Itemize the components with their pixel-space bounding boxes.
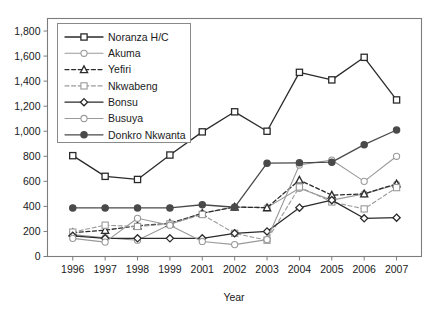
legend-label: Bonsu	[108, 96, 138, 108]
data-point-marker	[264, 160, 270, 166]
y-tick-label: 1,200	[14, 100, 40, 112]
data-point-marker	[199, 238, 205, 244]
data-point-marker	[81, 34, 87, 40]
x-tick-label: 2006	[353, 263, 377, 275]
chart-canvas: 02004006008001,0001,2001,4001,6001,800 1…	[0, 0, 435, 321]
y-tick-label: 0	[35, 250, 41, 262]
x-tick-label: 1999	[158, 263, 182, 275]
line-chart: 02004006008001,0001,2001,4001,6001,800 1…	[0, 0, 435, 321]
data-point-marker	[134, 223, 140, 229]
x-tick-label: 2005	[320, 263, 344, 275]
data-point-marker	[81, 115, 87, 121]
data-point-marker	[199, 202, 205, 208]
x-tick-label: 1998	[126, 263, 150, 275]
data-point-marker	[361, 215, 368, 222]
data-point-marker	[70, 205, 76, 211]
y-tick-label: 200	[23, 225, 41, 237]
data-point-marker	[329, 77, 335, 83]
x-axis-tick-labels: 1996199719981999200120022003200420052006…	[61, 263, 408, 275]
y-tick-label: 800	[23, 150, 41, 162]
data-point-marker	[102, 173, 108, 179]
data-point-marker	[81, 132, 87, 138]
data-point-marker	[296, 176, 303, 183]
data-point-marker	[393, 97, 399, 103]
data-point-marker	[134, 176, 140, 182]
data-point-marker	[393, 153, 399, 159]
x-tick-label: 2007	[385, 263, 409, 275]
data-point-marker	[167, 205, 173, 211]
data-point-marker	[296, 160, 302, 166]
data-point-marker	[393, 127, 399, 133]
data-point-marker	[70, 235, 76, 241]
data-point-marker	[329, 159, 335, 165]
x-tick-label: 1997	[93, 263, 117, 275]
data-point-marker	[264, 128, 270, 134]
x-tick-label: 2001	[191, 263, 215, 275]
data-point-marker	[393, 214, 400, 221]
data-point-marker	[393, 185, 399, 191]
x-axis-title: Year	[223, 291, 245, 303]
data-point-marker	[232, 109, 238, 115]
data-point-marker	[232, 204, 238, 210]
y-tick-label: 1,600	[14, 50, 40, 62]
legend-label: Yefiri	[108, 63, 131, 75]
data-point-marker	[264, 236, 270, 242]
x-tick-label: 2003	[255, 263, 279, 275]
legend-label: Noranza H/C	[108, 31, 169, 43]
data-point-marker	[81, 50, 87, 56]
data-point-marker	[232, 242, 238, 248]
y-tick-label: 1,000	[14, 125, 40, 137]
data-point-marker	[167, 222, 173, 228]
y-tick-label: 600	[23, 175, 41, 187]
chart-legend: Noranza H/CAkumaYefiriNkwabengBonsuBusuy…	[58, 24, 191, 143]
data-point-marker	[134, 215, 140, 221]
legend-label: Akuma	[108, 47, 141, 59]
data-point-marker	[102, 205, 108, 211]
x-axis-ticks	[73, 257, 397, 261]
legend-label: Nkwabeng	[108, 80, 158, 92]
x-tick-label: 1996	[61, 263, 85, 275]
y-tick-label: 1,400	[14, 75, 40, 87]
y-axis-tick-labels: 02004006008001,0001,2001,4001,6001,800	[14, 25, 40, 262]
data-point-marker	[199, 129, 205, 135]
y-axis-ticks	[44, 31, 48, 256]
data-point-marker	[361, 54, 367, 60]
data-point-marker	[361, 206, 367, 212]
data-point-marker	[134, 205, 140, 211]
legend-label: Donkro Nkwanta	[108, 129, 186, 141]
x-tick-label: 2002	[223, 263, 247, 275]
data-point-marker	[361, 178, 367, 184]
y-tick-label: 1,800	[14, 25, 40, 37]
data-point-marker	[70, 153, 76, 159]
data-point-marker	[102, 222, 108, 228]
data-point-marker	[361, 142, 367, 148]
y-tick-label: 400	[23, 200, 41, 212]
legend-label: Busuya	[108, 112, 143, 124]
data-point-marker	[102, 239, 108, 245]
data-point-marker	[167, 152, 173, 158]
data-point-marker	[81, 83, 87, 89]
data-point-marker	[199, 211, 205, 217]
x-tick-label: 2004	[288, 263, 312, 275]
data-point-marker	[166, 235, 173, 242]
data-point-marker	[296, 69, 302, 75]
data-point-marker	[361, 190, 368, 197]
data-point-marker	[296, 184, 302, 190]
